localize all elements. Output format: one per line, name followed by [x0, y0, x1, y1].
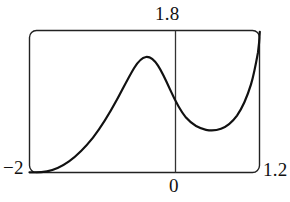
plot-canvas — [0, 0, 290, 202]
x-max-label: 1.2 — [263, 160, 288, 179]
x-min-label: −2 — [3, 158, 24, 177]
y-max-label: 1.8 — [155, 4, 180, 23]
function-plot-figure: 1.8 −2 1.2 0 — [0, 0, 290, 202]
origin-label: 0 — [169, 176, 179, 195]
plot-frame — [30, 31, 260, 173]
function-curve — [30, 32, 260, 173]
